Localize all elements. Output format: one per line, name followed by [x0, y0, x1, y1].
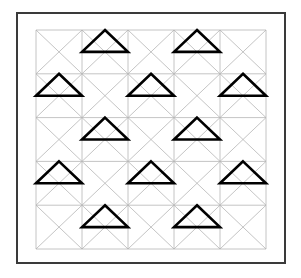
pattern-canvas — [0, 0, 301, 278]
pattern-figure — [0, 0, 301, 278]
